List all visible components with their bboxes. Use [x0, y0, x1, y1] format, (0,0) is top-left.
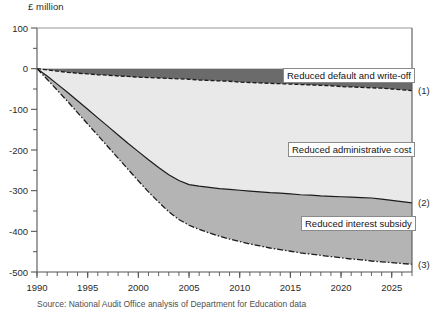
x-axis-ticks: 19901995200020052010201520202025: [26, 272, 412, 293]
svg-text:2015: 2015: [280, 282, 301, 293]
callout-reduced-default-and-write-off: Reduced default and write-off: [283, 68, 415, 83]
svg-text:-500: -500: [9, 267, 28, 278]
y-axis-ticks: 1000-100-200-300-400-500: [9, 23, 37, 278]
svg-text:2020: 2020: [330, 282, 351, 293]
svg-text:2005: 2005: [178, 282, 199, 293]
svg-text:(3): (3): [418, 259, 430, 270]
svg-text:(1): (1): [418, 85, 430, 96]
svg-text:1990: 1990: [26, 282, 47, 293]
callout-reduced-interest-subsidy: Reduced interest subsidy: [301, 216, 416, 231]
svg-text:0: 0: [23, 63, 28, 74]
svg-text:100: 100: [12, 23, 28, 34]
svg-text:2000: 2000: [128, 282, 149, 293]
chart-areas: [37, 69, 412, 265]
series-end-tags: (1)(2)(3): [418, 85, 430, 270]
svg-text:-300: -300: [9, 185, 28, 196]
callout-reduced-administrative-cost: Reduced administrative cost: [288, 142, 415, 157]
svg-text:-200: -200: [9, 145, 28, 156]
chart-footnote: Source: National Audit Office analysis o…: [37, 299, 306, 309]
svg-text:1995: 1995: [77, 282, 98, 293]
svg-text:-400: -400: [9, 226, 28, 237]
svg-text:-100: -100: [9, 104, 28, 115]
svg-text:2025: 2025: [381, 282, 402, 293]
svg-text:(2): (2): [418, 197, 430, 208]
svg-text:2010: 2010: [229, 282, 250, 293]
